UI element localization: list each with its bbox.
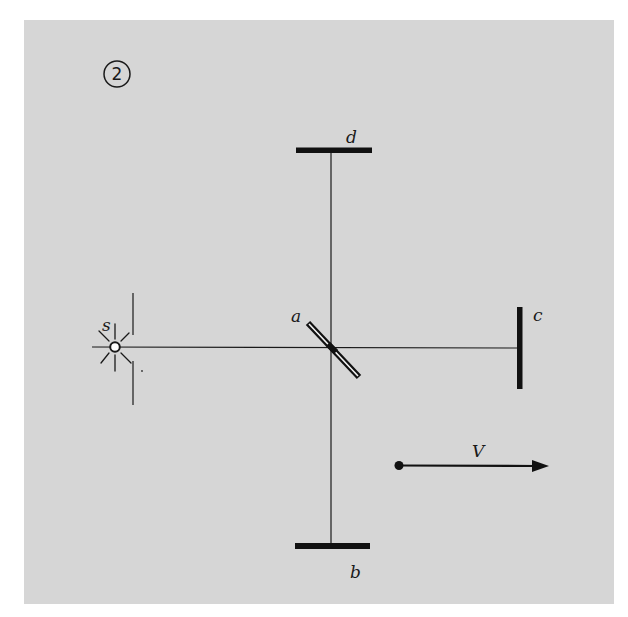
mirror-d-label: d <box>346 127 357 147</box>
source-s-label: s <box>102 315 111 335</box>
velocity-arrow: V <box>395 441 550 472</box>
mirror-c: c <box>517 305 543 389</box>
velocity-label: V <box>472 441 486 461</box>
figure-number: 2 <box>112 64 123 84</box>
source-point-icon <box>110 342 120 352</box>
mirror-b: b <box>295 543 370 582</box>
mirror-c-label: c <box>533 305 543 325</box>
arrowhead-icon <box>532 460 549 472</box>
interferometer-diagram: 2 d b c a <box>0 0 628 617</box>
light-source-s: s <box>99 293 143 405</box>
mirror-b-label: b <box>350 562 361 582</box>
beam-splitter-a-label: a <box>291 306 301 326</box>
mirror-d: d <box>296 127 372 153</box>
horizontal-beam-path <box>92 347 518 348</box>
figure-number-badge: 2 <box>104 61 130 87</box>
beam-splitter-a: a <box>291 306 359 377</box>
